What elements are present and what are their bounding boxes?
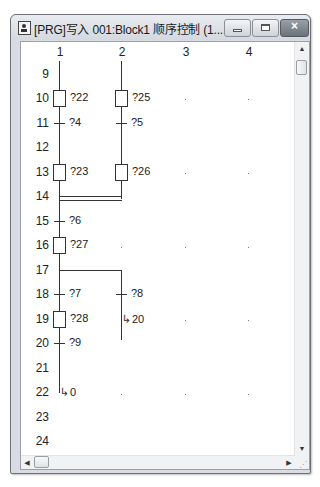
- sfc-link-col1-lower: [59, 200, 60, 393]
- grid-dot: [185, 173, 186, 174]
- grid-dot: [185, 320, 186, 321]
- maximize-button[interactable]: [252, 19, 279, 37]
- transition-label: ?8: [131, 287, 143, 299]
- sfc-transition[interactable]: [54, 221, 65, 222]
- sfc-step[interactable]: [53, 164, 66, 181]
- title-bar[interactable]: [PRG]写入 001:Block1 顺序控制 (1... ×: [11, 15, 310, 40]
- grid-dot: [185, 247, 186, 248]
- column-header-2: 2: [112, 45, 132, 59]
- sfc-step[interactable]: [53, 90, 66, 107]
- scroll-right-arrow-icon[interactable]: ▶: [283, 456, 295, 469]
- horizontal-scroll-thumb[interactable]: [34, 456, 49, 468]
- row-number-21: 21: [25, 361, 49, 375]
- grid-dot: [248, 394, 249, 395]
- transition-label: ?5: [131, 116, 143, 128]
- step-label: ?28: [70, 312, 88, 324]
- grid-dot: [248, 320, 249, 321]
- scroll-left-arrow-icon[interactable]: ◀: [21, 456, 33, 469]
- row-number-18: 18: [25, 287, 49, 301]
- jump-arrow-icon: ↳: [122, 314, 131, 325]
- scroll-up-arrow-icon[interactable]: ▲: [295, 42, 309, 56]
- step-label: ?27: [70, 238, 88, 250]
- jump-target[interactable]: 20: [132, 313, 144, 325]
- row-number-10: 10: [25, 91, 49, 105]
- row-number-23: 23: [25, 410, 49, 424]
- sfc-editor-window: [PRG]写入 001:Block1 顺序控制 (1... × 1 2 3 4 …: [10, 14, 311, 474]
- sfc-transition[interactable]: [116, 123, 127, 124]
- maximize-icon: [261, 24, 270, 31]
- sfc-diagram-area[interactable]: 1 2 3 4 9 10 11 12 13 14 15 16 17 18 19 …: [20, 41, 310, 470]
- sfc-link-branch-col2: [121, 270, 122, 340]
- sfc-transition[interactable]: [54, 294, 65, 295]
- program-icon[interactable]: [18, 21, 31, 35]
- row-number-20: 20: [25, 336, 49, 350]
- horizontal-scrollbar[interactable]: ◀ ▶: [21, 455, 295, 469]
- sfc-step[interactable]: [115, 164, 128, 181]
- row-number-19: 19: [25, 312, 49, 326]
- sfc-transition[interactable]: [54, 343, 65, 344]
- transition-label: ?4: [69, 116, 81, 128]
- step-label: ?22: [70, 91, 88, 103]
- transition-label: ?6: [69, 214, 81, 226]
- step-label: ?26: [132, 165, 150, 177]
- sfc-grid[interactable]: 1 2 3 4 9 10 11 12 13 14 15 16 17 18 19 …: [21, 42, 295, 456]
- jump-arrow-icon: ↳: [60, 387, 69, 398]
- sfc-step[interactable]: [115, 90, 128, 107]
- grid-dot: [248, 173, 249, 174]
- grid-dot: [185, 394, 186, 395]
- jump-target[interactable]: 0: [70, 386, 76, 398]
- row-number-16: 16: [25, 238, 49, 252]
- vertical-scroll-thumb[interactable]: [296, 60, 307, 75]
- close-button[interactable]: ×: [280, 19, 309, 37]
- row-number-13: 13: [25, 165, 49, 179]
- transition-label: ?7: [69, 287, 81, 299]
- vertical-scrollbar[interactable]: ▲ ▼: [294, 42, 309, 456]
- grid-dot: [121, 247, 122, 248]
- grid-dot: [248, 247, 249, 248]
- scroll-down-arrow-icon[interactable]: ▼: [295, 442, 309, 456]
- step-label: ?23: [70, 165, 88, 177]
- column-header-4: 4: [239, 45, 259, 59]
- row-number-12: 12: [25, 140, 49, 154]
- row-number-17: 17: [25, 263, 49, 277]
- grid-dot: [248, 99, 249, 100]
- sfc-transition[interactable]: [54, 123, 65, 124]
- close-icon: ×: [281, 19, 308, 33]
- step-label: ?25: [132, 91, 150, 103]
- minimize-icon: [233, 29, 242, 32]
- minimize-button[interactable]: [224, 19, 251, 37]
- sfc-step[interactable]: [53, 237, 66, 254]
- grid-dot: [121, 394, 122, 395]
- column-header-1: 1: [50, 45, 70, 59]
- grid-dot: [185, 99, 186, 100]
- sfc-step[interactable]: [53, 311, 66, 328]
- window-title: [PRG]写入 001:Block1 顺序控制 (1...: [34, 20, 223, 37]
- row-number-9: 9: [25, 67, 49, 81]
- selection-branch-line: [59, 270, 122, 271]
- row-number-14: 14: [25, 189, 49, 203]
- parallel-merge-line-top: [59, 196, 122, 197]
- row-number-11: 11: [25, 116, 49, 130]
- row-number-15: 15: [25, 214, 49, 228]
- sfc-transition[interactable]: [116, 294, 127, 295]
- parallel-merge-line-bottom: [59, 200, 122, 201]
- row-number-24: 24: [25, 434, 49, 448]
- column-header-3: 3: [176, 45, 196, 59]
- row-number-22: 22: [25, 385, 49, 399]
- transition-label: ?9: [69, 336, 81, 348]
- resize-grip-icon[interactable]: [295, 456, 309, 469]
